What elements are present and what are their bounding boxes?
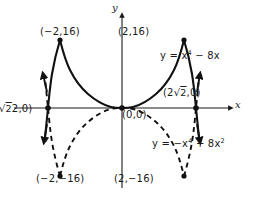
label-min-left: (−2,−16) [36,174,84,184]
label-x-intercept-right-head: (2 [163,87,174,98]
graph-figure: (−2,16) (2,16) (−2,−16) (2,−16) (0,0) √2… [0,0,253,198]
equation-solid-middle: − 8x [192,50,220,61]
label-max-right: (2,16) [118,27,149,37]
point-x-intercept-left [45,105,51,111]
point-max-right [181,37,186,42]
point-x-intercept-right [193,105,199,111]
label-max-left: (−2,16) [40,27,80,37]
point-min-right [181,173,186,178]
label-origin: (0,0) [122,110,147,120]
point-max-left [57,37,62,42]
equation-solid-prefix: y = x [160,50,188,61]
label-min-right: (2,−16) [114,174,154,184]
y-axis-label: y [112,3,118,13]
equation-dashed-middle: + 8x [193,138,221,149]
x-axis-label: x [235,100,241,110]
equation-solid-curve: y = x4 − 8x [160,50,220,61]
label-x-intercept-left-tail: 2,0) [12,103,33,114]
equation-dashed-curve: y = −x4 + 8x2 [152,138,225,149]
equation-dashed-prefix: y = −x [152,138,188,149]
label-x-intercept-left: √22,0) [0,104,32,114]
equation-dashed-exponent-2: 2 [221,137,225,145]
label-x-intercept-right: (2√2,0) [163,88,201,98]
label-x-intercept-right-tail: ,0) [187,87,201,98]
